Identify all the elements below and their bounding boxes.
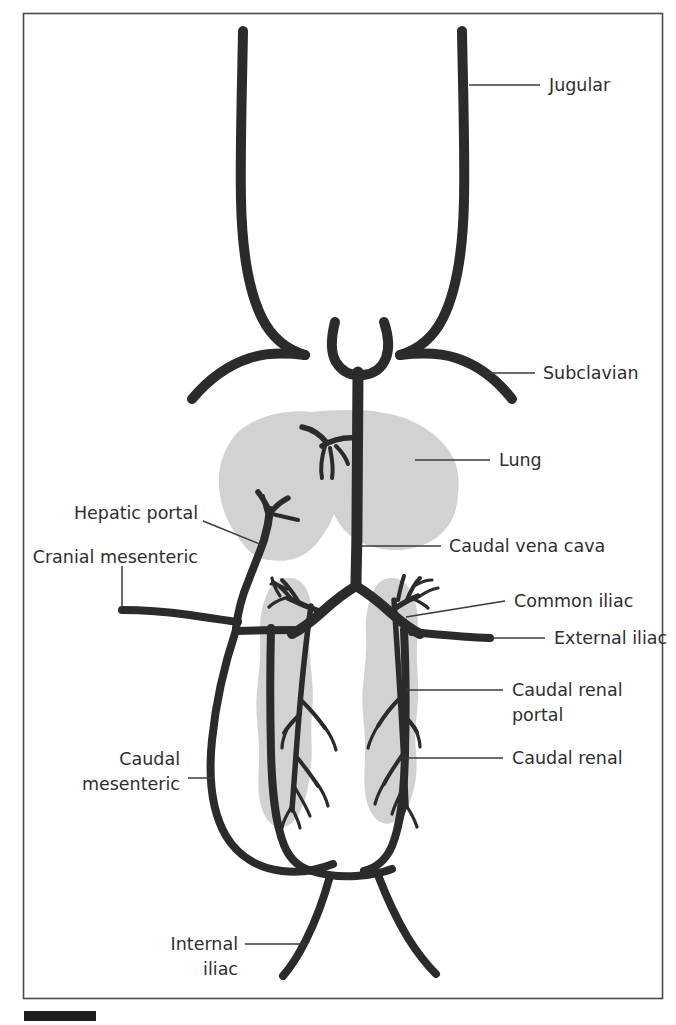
label-caudal-mesenteric-line2: mesenteric — [82, 774, 180, 794]
label-cranial-mesenteric: Cranial mesenteric — [33, 547, 198, 567]
label-hepatic-portal: Hepatic portal — [74, 503, 198, 523]
label-common-iliac: Common iliac — [514, 591, 633, 611]
label-lung: Lung — [499, 450, 542, 470]
label-jugular: Jugular — [548, 75, 611, 95]
label-caudal-renal-portal-line2: portal — [512, 705, 563, 725]
bottom-registration-bar — [24, 1011, 96, 1021]
label-caudal-renal-portal-line1: Caudal renal — [512, 680, 623, 700]
label-caudal-renal: Caudal renal — [512, 748, 623, 768]
caudal-vena-cava-vessel — [356, 372, 358, 586]
label-internal-iliac-line2: iliac — [203, 959, 238, 979]
venous-system-diagram: Jugular Subclavian Lung Hepatic portal C… — [0, 0, 676, 1025]
label-subclavian: Subclavian — [543, 363, 639, 383]
label-caudal-vena-cava: Caudal vena cava — [449, 536, 605, 556]
label-internal-iliac-line1: Internal — [171, 934, 238, 954]
label-external-iliac: External iliac — [554, 628, 667, 648]
label-caudal-mesenteric-line1: Caudal — [119, 749, 180, 769]
